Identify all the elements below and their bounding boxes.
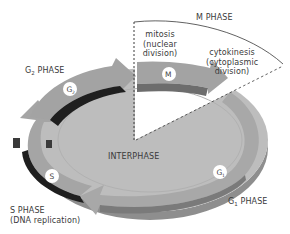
cytokinesis-line-1: cytokinesis xyxy=(206,48,258,58)
badge-g1: G 1 xyxy=(213,165,227,179)
s-phase-line-2: (DNA replication) xyxy=(10,216,80,226)
badge-g2: G 2 xyxy=(63,82,77,96)
badge-m: M xyxy=(162,67,176,81)
g1-phase-label: G1 PHASE xyxy=(228,197,268,209)
m-phase-label: M PHASE xyxy=(196,13,233,23)
mitosis-line-2: (nuclear xyxy=(140,40,180,50)
interphase-label: INTERPHASE xyxy=(108,152,159,162)
svg-text:2: 2 xyxy=(72,90,75,95)
cytokinesis-label: cytokinesis (cytoplasmic division) xyxy=(206,48,258,77)
cytokinesis-line-2: (cytoplasmic xyxy=(206,58,258,68)
s-phase-label: S PHASE (DNA replication) xyxy=(10,206,80,225)
badge-s: S xyxy=(45,169,59,183)
mitosis-line-1: mitosis xyxy=(140,30,180,40)
cell-cycle-diagram: G 2 M S G 1 M PHASE mitosis (nuclear div… xyxy=(0,0,290,234)
mitosis-label: mitosis (nuclear division) xyxy=(140,30,180,59)
svg-text:M: M xyxy=(165,70,171,79)
g2-phase-label: G2 PHASE xyxy=(25,66,65,78)
cytokinesis-line-3: division) xyxy=(206,67,258,77)
svg-text:1: 1 xyxy=(222,173,225,178)
svg-text:S: S xyxy=(50,172,55,181)
mitosis-line-3: division) xyxy=(140,49,180,59)
s-phase-line-1: S PHASE xyxy=(10,206,80,216)
